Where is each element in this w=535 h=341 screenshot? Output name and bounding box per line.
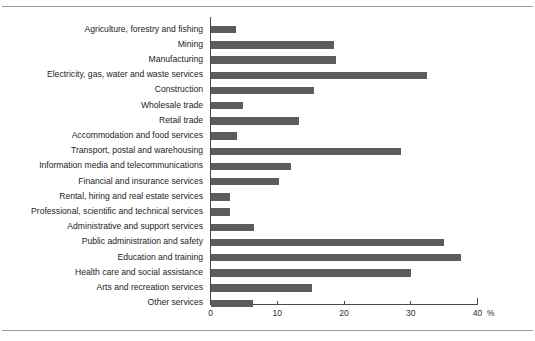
- bar: [211, 72, 427, 79]
- category-label: Arts and recreation services: [96, 282, 203, 293]
- chart-row: Wholesale trade: [0, 99, 535, 114]
- category-label: Construction: [155, 84, 203, 95]
- chart-row: Public administration and safety: [0, 235, 535, 250]
- chart-row: Health care and social assistance: [0, 266, 535, 281]
- category-label: Administrative and support services: [67, 221, 203, 232]
- category-label: Agriculture, forestry and fishing: [85, 24, 203, 35]
- bar: [211, 163, 291, 170]
- category-label: Accommodation and food services: [72, 130, 203, 141]
- chart-row: Professional, scientific and technical s…: [0, 205, 535, 220]
- chart-row: Arts and recreation services: [0, 281, 535, 296]
- bar: [211, 284, 312, 291]
- chart-row: Agriculture, forestry and fishing: [0, 23, 535, 38]
- bar: [211, 193, 230, 200]
- chart-row: Transport, postal and warehousing: [0, 144, 535, 159]
- chart-row: Rental, hiring and real estate services: [0, 190, 535, 205]
- category-label: Rental, hiring and real estate services: [59, 191, 203, 202]
- chart-row: Accommodation and food services: [0, 129, 535, 144]
- chart-row: Retail trade: [0, 114, 535, 129]
- category-label: Electricity, gas, water and waste servic…: [47, 69, 203, 80]
- category-label: Manufacturing: [149, 54, 203, 65]
- bar-chart-plot-area: % 010203040Agriculture, forestry and fis…: [0, 0, 535, 341]
- chart-row: Manufacturing: [0, 53, 535, 68]
- bar: [211, 178, 279, 185]
- bar: [211, 208, 230, 215]
- bar: [211, 300, 253, 307]
- category-label: Financial and insurance services: [78, 176, 203, 187]
- chart-row: Information media and telecommunications: [0, 159, 535, 174]
- category-label: Wholesale trade: [141, 100, 203, 111]
- bar: [211, 269, 411, 276]
- bar: [211, 26, 236, 33]
- bar: [211, 87, 314, 94]
- bar: [211, 41, 334, 48]
- category-label: Public administration and safety: [82, 236, 203, 247]
- bar: [211, 254, 461, 261]
- category-label: Retail trade: [159, 115, 203, 126]
- bar: [211, 239, 444, 246]
- bar: [211, 117, 299, 124]
- category-label: Education and training: [117, 252, 203, 263]
- bar: [211, 56, 336, 63]
- category-label: Mining: [178, 39, 203, 50]
- category-label: Health care and social assistance: [75, 267, 203, 278]
- bar: [211, 224, 254, 231]
- bar: [211, 102, 243, 109]
- chart-row: Electricity, gas, water and waste servic…: [0, 68, 535, 83]
- chart-row: Mining: [0, 38, 535, 53]
- chart-row: Construction: [0, 83, 535, 98]
- category-label: Professional, scientific and technical s…: [31, 206, 203, 217]
- chart-row: Other services: [0, 296, 535, 311]
- chart-figure: % 010203040Agriculture, forestry and fis…: [0, 0, 535, 341]
- chart-row: Administrative and support services: [0, 220, 535, 235]
- category-label: Other services: [148, 297, 203, 308]
- category-label: Transport, postal and warehousing: [71, 145, 203, 156]
- chart-row: Education and training: [0, 251, 535, 266]
- category-label: Information media and telecommunications: [39, 160, 203, 171]
- chart-row: Financial and insurance services: [0, 175, 535, 190]
- bar: [211, 132, 237, 139]
- bar: [211, 148, 401, 155]
